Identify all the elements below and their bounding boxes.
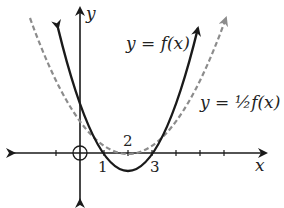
tick-label-1: 1 bbox=[98, 158, 108, 176]
curve-half-f-label: y = ½f(x) bbox=[200, 92, 280, 112]
tick-label-2: 2 bbox=[123, 132, 133, 150]
tick-label-3: 3 bbox=[150, 158, 160, 176]
x-axis-label: x bbox=[255, 155, 265, 175]
y-axis-label: y bbox=[86, 3, 96, 23]
curve-f-label: y = f(x) bbox=[126, 33, 190, 53]
